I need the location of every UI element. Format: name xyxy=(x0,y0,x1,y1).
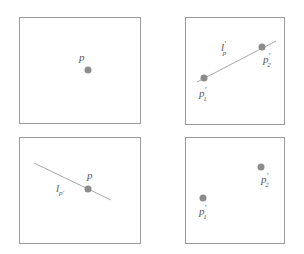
point-marker xyxy=(259,44,266,51)
panel-top-left: p xyxy=(20,18,141,124)
point-label: p xyxy=(86,169,93,181)
panel-bottom-left: lp′p xyxy=(20,138,141,244)
panel-top-right: l′pp′1p′2 xyxy=(186,18,285,125)
panel-frame xyxy=(186,138,285,244)
panel-frame xyxy=(186,18,285,125)
point-label: p xyxy=(78,51,85,63)
point-marker xyxy=(200,195,207,202)
point-marker xyxy=(85,186,92,193)
panel-frame xyxy=(20,138,141,244)
epipolar-diagram: pl′pp′1p′2lp′pp′1p′2 xyxy=(0,0,304,254)
panel-frame xyxy=(20,18,141,124)
panel-bottom-right: p′1p′2 xyxy=(186,138,285,244)
point-marker xyxy=(201,75,208,82)
point-marker xyxy=(85,67,92,74)
point-marker xyxy=(258,164,265,171)
